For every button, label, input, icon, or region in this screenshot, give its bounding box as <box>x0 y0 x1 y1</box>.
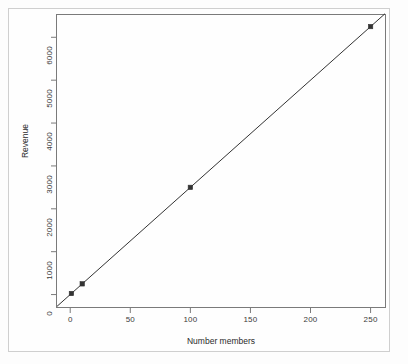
x-tick-label: 200 <box>291 315 331 324</box>
data-series-line <box>57 14 385 307</box>
x-axis-ticks <box>70 308 370 313</box>
x-axis-title: Number members <box>56 336 386 346</box>
x-tick-label: 150 <box>230 315 270 324</box>
y-axis-title: Revenue <box>20 124 30 158</box>
y-tick-label: 4000 <box>45 122 54 162</box>
y-tick-label: 3000 <box>45 164 54 204</box>
y-tick-label: 6000 <box>45 36 54 76</box>
y-tick-label: 5000 <box>45 79 54 119</box>
x-tick-label: 100 <box>170 315 210 324</box>
x-tick-label: 50 <box>110 315 150 324</box>
y-tick-label: 1000 <box>45 250 54 290</box>
x-tick-label: 0 <box>50 315 90 324</box>
y-tick-label: 0 <box>45 293 54 333</box>
figure-container: 050100150200250 010002000300040005000600… <box>0 0 408 364</box>
chart-canvas <box>0 0 408 364</box>
y-tick-label: 2000 <box>45 207 54 247</box>
x-tick-label: 250 <box>351 315 391 324</box>
